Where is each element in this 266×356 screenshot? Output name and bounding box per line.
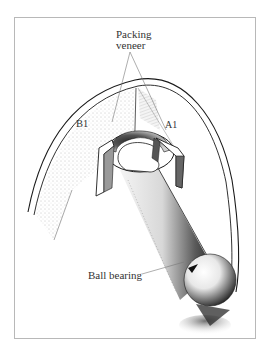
label-packing-line2: veneer bbox=[116, 40, 151, 51]
label-a1: A1 bbox=[165, 119, 177, 130]
packing-veneer-left bbox=[96, 140, 114, 196]
label-ball-bearing: Ball bearing bbox=[88, 270, 142, 281]
label-packing-veneer: Packing veneer bbox=[116, 29, 151, 51]
label-b1: B1 bbox=[76, 118, 88, 129]
ball-bearing-joint-illustration bbox=[0, 0, 266, 356]
